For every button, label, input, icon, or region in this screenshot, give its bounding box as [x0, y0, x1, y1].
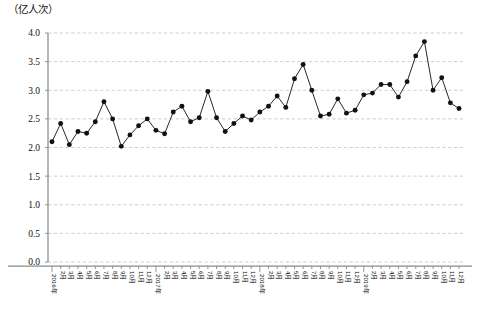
y-axis-tick-label: 2.5: [28, 114, 40, 124]
x-axis-tick-label: 2月: [267, 271, 275, 280]
y-axis-tick-label: 3.0: [28, 86, 40, 96]
data-point-marker: [387, 82, 392, 87]
data-point-marker: [249, 118, 254, 123]
x-axis-tick-label: 6月: [405, 271, 413, 280]
data-point-marker: [58, 121, 63, 126]
x-axis-tick-label: 5月: [189, 271, 197, 280]
data-point-marker: [119, 144, 124, 149]
x-axis-tick-label: 4月: [76, 271, 84, 280]
x-axis-tick-label: 5月: [85, 271, 93, 280]
x-axis-tick-label: 9月: [327, 271, 335, 280]
x-axis-tick-label: 8月: [318, 271, 326, 280]
x-axis-tick-label: 2017年: [154, 274, 162, 294]
x-axis-tick-label: 3月: [171, 271, 179, 280]
x-axis-tick-label: 2月: [370, 271, 378, 280]
data-point-marker: [431, 88, 436, 93]
data-point-marker: [197, 115, 202, 120]
data-point-marker: [457, 106, 462, 111]
x-axis-tick-label: 8月: [422, 271, 430, 280]
data-point-marker: [145, 116, 150, 121]
y-axis-tick-label: 4.0: [28, 28, 40, 38]
data-point-marker: [67, 142, 72, 147]
x-axis-tick-label: 11月: [137, 271, 145, 283]
x-axis-tick-label: 2019年: [362, 274, 370, 294]
y-axis-tick-label: 1.5: [28, 172, 40, 182]
x-axis-tick-label: 9月: [223, 271, 231, 280]
data-point-marker: [405, 79, 410, 84]
x-axis-tick-label: 4月: [388, 271, 396, 280]
x-axis-tick-label: 2018年: [258, 274, 266, 294]
data-point-marker: [283, 105, 288, 110]
x-axis-tick-label: 6月: [93, 271, 101, 280]
x-axis-tick-label: 12月: [457, 271, 465, 284]
x-axis-tick-label: 5月: [396, 271, 404, 280]
x-axis-tick-label: 9月: [119, 271, 127, 280]
x-axis-tick-label: 11月: [344, 271, 352, 283]
data-point-marker: [171, 110, 176, 115]
data-point-marker: [153, 128, 158, 133]
data-point-marker: [110, 116, 115, 121]
data-point-marker: [275, 94, 280, 99]
data-point-marker: [266, 104, 271, 109]
data-point-marker: [179, 104, 184, 109]
x-axis-tick-label: 10月: [336, 271, 344, 284]
chart-axes: [8, 33, 472, 266]
x-axis-tick-label: 3月: [275, 271, 283, 280]
x-axis-tick-label: 7月: [102, 271, 110, 280]
y-axis-tick-label: 2.0: [28, 143, 40, 153]
y-axis-tick-label: 1.0: [28, 200, 40, 210]
x-axis-tick-label: 6月: [197, 271, 205, 280]
x-axis-tick-label: 3月: [67, 271, 75, 280]
data-point-marker: [396, 95, 401, 100]
data-point-marker: [439, 75, 444, 80]
data-point-marker: [335, 96, 340, 101]
data-point-marker: [309, 88, 314, 93]
x-axis-tick-label: 2016年: [50, 274, 58, 294]
x-axis-tick-label: 6月: [301, 271, 309, 280]
data-point-marker: [379, 82, 384, 87]
x-axis-tick-label: 7月: [310, 271, 318, 280]
x-axis-tick-label: 12月: [145, 271, 153, 284]
data-point-marker: [353, 108, 358, 113]
y-axis-tick-labels: 0.00.51.01.52.02.53.03.54.0: [28, 28, 40, 267]
data-point-marker: [292, 76, 297, 81]
data-point-marker: [127, 132, 132, 137]
x-axis-tick-label: 4月: [180, 271, 188, 280]
x-axis-tick-label: 11月: [241, 271, 249, 283]
data-point-marker: [257, 110, 262, 115]
data-point-marker: [84, 131, 89, 136]
x-axis-tick-label: 9月: [431, 271, 439, 280]
line-chart-plot: 0.00.51.01.52.02.53.03.54.0 2016年2月3月4月5…: [0, 0, 478, 309]
data-point-marker: [318, 114, 323, 119]
data-point-marker: [93, 119, 98, 124]
x-axis-tick-label: 10月: [232, 271, 240, 284]
gridlines: [48, 33, 465, 262]
x-axis-tick-label: 12月: [249, 271, 257, 284]
data-point-marker: [327, 112, 332, 117]
x-axis-tick-label: 11月: [448, 271, 456, 283]
data-point-marker: [448, 100, 453, 105]
x-axis-tick-label: 4月: [284, 271, 292, 280]
x-axis-tick-label: 10月: [128, 271, 136, 284]
data-point-marker: [370, 91, 375, 96]
data-point-marker: [102, 99, 107, 104]
y-axis-tick-label: 3.5: [28, 57, 40, 67]
data-point-marker: [188, 119, 193, 124]
data-point-marker: [361, 92, 366, 97]
data-point-marker: [76, 129, 81, 134]
data-point-marker: [344, 111, 349, 116]
data-point-marker: [136, 123, 141, 128]
data-point-marker: [231, 121, 236, 126]
x-axis-tick-label: 8月: [111, 271, 119, 280]
x-axis-tick-label: 2月: [163, 271, 171, 280]
data-point-marker: [413, 53, 418, 58]
x-axis-tick-label: 2月: [59, 271, 67, 280]
data-point-marker: [50, 139, 55, 144]
x-axis-tick-label: 12月: [353, 271, 361, 284]
data-point-marker: [205, 89, 210, 94]
data-point-marker: [301, 62, 306, 67]
x-axis-tick-label: 5月: [292, 271, 300, 280]
x-axis-tick-label: 10月: [440, 271, 448, 284]
x-axis-tick-label: 3月: [379, 271, 387, 280]
chart-container: （亿人次） 0.00.51.01.52.02.53.03.54.0 2016年2…: [0, 0, 478, 309]
